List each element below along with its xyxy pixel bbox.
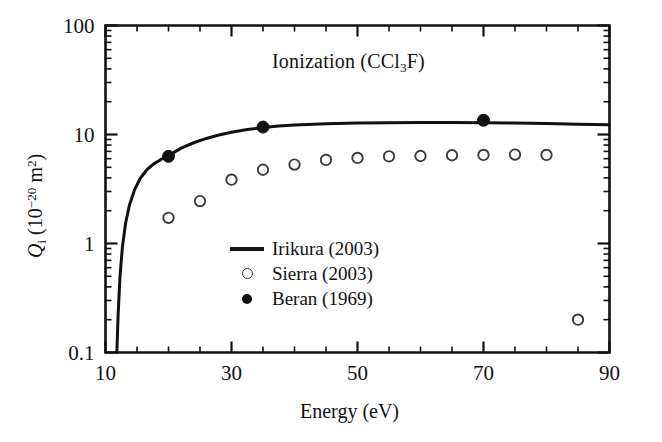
data-point-sierra bbox=[226, 174, 236, 184]
data-point-sierra bbox=[384, 151, 394, 161]
y-tick-label: 10 bbox=[74, 123, 95, 147]
data-point-sierra bbox=[478, 150, 488, 160]
y-axis-title: Qi (10−20 m2) bbox=[24, 154, 50, 258]
legend-key-open-circle bbox=[228, 268, 266, 279]
data-point-sierra bbox=[510, 149, 520, 159]
x-tick-label: 10 bbox=[95, 361, 116, 385]
x-tick-label: 30 bbox=[221, 361, 242, 385]
legend-label-sierra: Sierra (2003) bbox=[266, 261, 373, 286]
data-point-sierra bbox=[195, 196, 205, 206]
data-point-sierra bbox=[289, 159, 299, 169]
y-tick-label: 0.1 bbox=[68, 341, 94, 365]
data-point-sierra bbox=[415, 151, 425, 161]
x-tick-label: 70 bbox=[473, 361, 494, 385]
data-point-sierra bbox=[541, 150, 551, 160]
x-axis-title: Energy (eV) bbox=[300, 400, 399, 423]
x-tick-label: 90 bbox=[599, 361, 620, 385]
legend-item-beran: Beran (1969) bbox=[228, 286, 379, 311]
chart-title: Ionization (CCl3F) bbox=[272, 50, 425, 76]
legend-item-irikura: Irikura (2003) bbox=[228, 236, 379, 261]
legend-item-sierra: Sierra (2003) bbox=[228, 261, 379, 286]
data-point-sierra bbox=[258, 165, 268, 175]
data-point-beran bbox=[257, 121, 269, 133]
y-tick-label: 1 bbox=[84, 232, 95, 256]
data-point-sierra bbox=[573, 314, 583, 324]
data-point-sierra bbox=[352, 153, 362, 163]
legend-label-beran: Beran (1969) bbox=[266, 286, 373, 311]
legend-key-filled-circle bbox=[228, 294, 266, 304]
data-point-sierra bbox=[321, 155, 331, 165]
ionization-cross-section-figure: 10305070900.1110100 Ionization (CCl3F) E… bbox=[0, 0, 662, 442]
y-tick-label: 100 bbox=[63, 14, 95, 38]
data-point-sierra bbox=[163, 213, 173, 223]
x-tick-label: 50 bbox=[347, 361, 368, 385]
legend-label-irikura: Irikura (2003) bbox=[266, 236, 379, 261]
data-point-beran bbox=[478, 114, 490, 126]
data-point-sierra bbox=[447, 150, 457, 160]
data-point-beran bbox=[163, 150, 175, 162]
legend-key-line bbox=[228, 247, 266, 251]
chart-legend: Irikura (2003) Sierra (2003) Beran (1969… bbox=[228, 236, 379, 311]
